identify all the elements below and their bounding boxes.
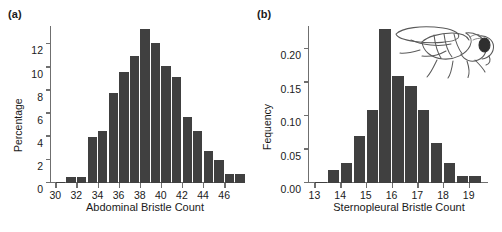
- y-axis-tick: [46, 89, 51, 90]
- histogram-bar: [457, 176, 468, 183]
- y-axis-tick: [46, 112, 51, 113]
- histogram-bar: [88, 137, 97, 183]
- histogram-bar: [66, 177, 75, 183]
- panel-a-y-axis-label: Percentage: [12, 98, 24, 152]
- histogram-bar: [315, 182, 326, 183]
- y-axis-tick: [304, 148, 309, 149]
- x-axis-tick: [224, 183, 225, 188]
- x-axis-tick-label: 36: [113, 189, 125, 201]
- panel-a-x-axis-label: Abdominal Bristle Count: [86, 201, 204, 213]
- histogram-bar: [56, 182, 65, 183]
- histogram-bar: [98, 131, 107, 183]
- two-panel-histogram-figure: (a) Percentage 0246810123032343638404244…: [0, 0, 502, 232]
- y-axis-tick: [46, 182, 51, 183]
- histogram-bar: [354, 136, 365, 183]
- x-axis-tick-label: 17: [411, 189, 423, 201]
- x-axis-tick: [140, 183, 141, 188]
- panel-a-label: (a): [8, 8, 22, 20]
- x-axis-tick: [314, 183, 315, 188]
- histogram-bar: [235, 174, 244, 183]
- histogram-bar: [341, 163, 352, 183]
- x-axis-tick: [76, 183, 77, 188]
- y-axis-tick: [304, 115, 309, 116]
- y-axis-tick: [46, 43, 51, 44]
- x-axis-tick-label: 16: [386, 189, 398, 201]
- x-axis-tick: [182, 183, 183, 188]
- x-axis-tick-label: 13: [309, 189, 321, 201]
- panel-b-label: (b): [257, 8, 271, 20]
- x-axis-tick: [469, 183, 470, 188]
- x-axis-tick: [161, 183, 162, 188]
- x-axis-tick-label: 19: [463, 189, 475, 201]
- x-axis-tick-label: 14: [334, 189, 346, 201]
- histogram-bar: [161, 66, 170, 183]
- histogram-bar: [392, 76, 403, 183]
- x-axis-tick-label: 38: [134, 189, 146, 201]
- histogram-bar: [77, 177, 86, 183]
- panel-b: (b) Fequency 0.000.050.100.150.201314151…: [251, 0, 502, 232]
- x-axis-tick: [340, 183, 341, 188]
- x-axis-tick: [119, 183, 120, 188]
- histogram-bar: [214, 160, 223, 183]
- x-axis-tick-label: 42: [176, 189, 188, 201]
- x-axis-tick: [98, 183, 99, 188]
- histogram-bar: [431, 143, 442, 183]
- panel-b-x-axis-label: Sternopleural Bristle Count: [333, 201, 464, 213]
- x-axis-tick-label: 18: [437, 189, 449, 201]
- histogram-bar: [444, 163, 455, 183]
- x-axis-tick: [417, 183, 418, 188]
- histogram-bar: [119, 72, 128, 183]
- histogram-bar: [109, 93, 118, 183]
- panel-a-bars: [50, 26, 240, 183]
- histogram-bar: [204, 151, 213, 183]
- histogram-bar: [328, 170, 339, 183]
- y-axis-tick: [46, 135, 51, 136]
- x-axis-tick-label: 46: [218, 189, 230, 201]
- x-axis-tick: [392, 183, 393, 188]
- x-axis-tick-label: 44: [197, 189, 209, 201]
- y-axis-tick: [304, 48, 309, 49]
- histogram-bar: [183, 117, 192, 183]
- histogram-bar: [405, 86, 416, 183]
- x-axis-tick-label: 30: [49, 189, 61, 201]
- x-axis-tick-label: 34: [92, 189, 104, 201]
- histogram-bar: [225, 174, 234, 183]
- histogram-bar: [151, 43, 160, 183]
- x-axis-tick: [203, 183, 204, 188]
- panel-a: (a) Percentage 0246810123032343638404244…: [0, 0, 251, 232]
- histogram-bar: [193, 131, 202, 183]
- y-axis-tick: [304, 182, 309, 183]
- x-axis-tick: [366, 183, 367, 188]
- histogram-bar: [367, 110, 378, 183]
- x-axis-tick-label: 15: [360, 189, 372, 201]
- x-axis-tick-label: 32: [71, 189, 83, 201]
- panel-b-y-axis-label: Fequency: [261, 104, 273, 150]
- y-axis-tick: [304, 81, 309, 82]
- y-axis-tick: [46, 159, 51, 160]
- x-axis-tick-label: 40: [155, 189, 167, 201]
- x-axis-tick: [443, 183, 444, 188]
- histogram-bar: [469, 176, 480, 183]
- y-axis-tick: [46, 66, 51, 67]
- panel-a-plot-area: 024681012303234363840424446: [50, 26, 240, 183]
- histogram-bar: [379, 29, 390, 183]
- histogram-bar: [140, 29, 149, 183]
- histogram-bar: [130, 56, 139, 183]
- fruit-fly-icon: [391, 14, 496, 80]
- x-axis-tick: [55, 183, 56, 188]
- histogram-bar: [418, 110, 429, 183]
- histogram-bar: [172, 77, 181, 183]
